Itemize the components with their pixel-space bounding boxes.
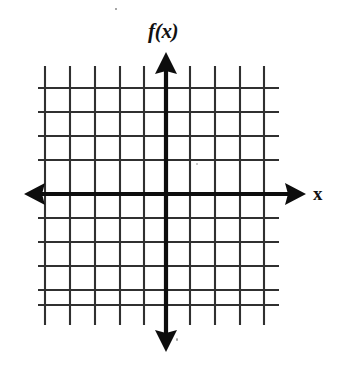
scan-speck <box>196 163 198 165</box>
scan-speck <box>115 8 117 10</box>
scan-speck <box>176 338 178 341</box>
x-axis-label: x <box>313 184 323 203</box>
coordinate-grid-figure: f(x) x <box>0 0 340 385</box>
coordinate-grid-canvas <box>0 0 340 385</box>
f-of-x-axis-label: f(x) <box>148 21 178 42</box>
